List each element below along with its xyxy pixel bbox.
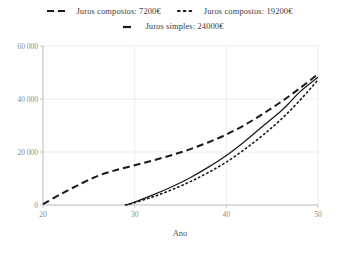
chart-figure: Juros compostos: 7200€ Juros compostos: … [0, 0, 340, 253]
y-tick-label: 40 000 [17, 95, 38, 104]
y-tick-label: 0 [34, 201, 38, 210]
chart-canvas: 020 00040 00060 000 20304050 Ano [0, 0, 340, 253]
y-tick-label: 60 000 [17, 42, 38, 51]
x-tick-label: 20 [39, 210, 47, 219]
x-tick-label: 40 [223, 210, 231, 219]
series-line-0 [43, 74, 318, 204]
x-tick-label: 50 [314, 210, 322, 219]
x-tick-labels: 20304050 [39, 210, 322, 219]
x-axis-title: Ano [173, 228, 188, 238]
y-tick-labels: 020 00040 00060 000 [17, 42, 38, 210]
data-series-layer [43, 74, 318, 205]
plot-area: 020 00040 00060 000 20304050 Ano [0, 0, 340, 253]
x-tick-label: 30 [131, 210, 139, 219]
y-tick-label: 20 000 [17, 148, 38, 157]
